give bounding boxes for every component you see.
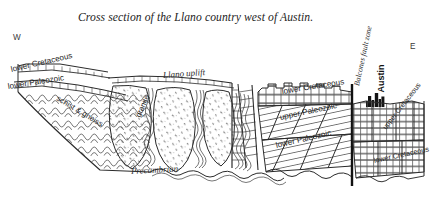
compass-marker-east: E [410,43,415,51]
geologic-cross-section-figure: Cross section of the Llano country west … [0,0,441,210]
figure-title: Cross section of the Llano country west … [78,12,313,24]
compass-marker-west: W [13,34,21,42]
label-austin: Austin [377,65,386,93]
